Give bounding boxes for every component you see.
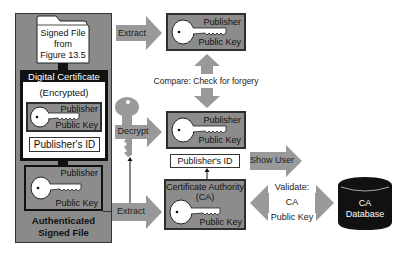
key-label-bottom: Public Key	[190, 37, 241, 47]
key-label-top: Publisher	[190, 115, 241, 125]
key-icon	[30, 176, 82, 200]
panel-footer-1: Authenticated	[15, 215, 112, 227]
validate-label-3: Public Key	[268, 212, 316, 222]
key-label-bottom: Public Key	[50, 198, 98, 208]
signed-file-label-2: from	[36, 39, 90, 49]
validate-label-1: Validate:	[268, 182, 316, 192]
panel-footer-2: Signed File	[15, 227, 112, 239]
signed-file-label-3: Figure 13.5	[36, 50, 90, 60]
compare-arrow-up	[194, 54, 220, 74]
show-user-label: Show User	[250, 155, 292, 165]
compare-label: Compare: Check for forgery	[140, 76, 272, 86]
key-label-top: Publisher	[50, 104, 98, 114]
ca-title-1: Certificate Authority	[164, 182, 246, 192]
database-label-1: CA	[338, 198, 392, 208]
database-label-2: Database	[338, 209, 392, 219]
decrypt-label: Decrypt	[116, 126, 150, 136]
key-label-top: Publisher	[190, 17, 241, 27]
middle-publishers-id: Publisher's ID	[170, 154, 240, 168]
extract-label-top: Extract	[116, 28, 148, 38]
ca-key-label: Public Key	[190, 217, 242, 227]
validate-label-2: CA	[268, 197, 316, 207]
key-label-top: Publisher	[50, 168, 98, 178]
digital-certificate-header: Digital Certificate	[20, 71, 108, 82]
extract-label-bottom: Extract	[113, 206, 149, 216]
publishers-id-box: Publisher's ID	[29, 137, 100, 152]
signed-file-label-1: Signed File	[36, 28, 90, 38]
key-label-bottom: Public Key	[50, 120, 98, 130]
connector	[58, 63, 68, 70]
compare-arrow-down	[194, 88, 220, 108]
key-label-bottom: Public Key	[190, 135, 241, 145]
encrypted-label: (Encrypted)	[23, 88, 105, 98]
